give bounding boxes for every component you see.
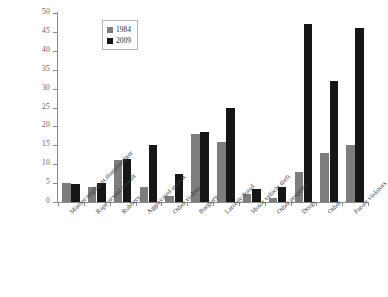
gray-square-icon <box>107 27 113 33</box>
y-axis-tick-label: 15 <box>42 139 50 148</box>
x-axis-tick-mark <box>58 202 59 206</box>
bar-2009 <box>226 108 235 203</box>
y-axis-tick-label: 25 <box>42 102 50 111</box>
y-axis-tick-mark <box>53 202 57 203</box>
y-axis-tick-label: 5 <box>46 177 50 186</box>
y-axis-tick-label: 40 <box>42 45 50 54</box>
y-axis-tick-mark <box>53 126 57 127</box>
y-axis-tick-label: 0 <box>46 196 50 205</box>
y-axis-tick-mark <box>53 145 57 146</box>
bar-2009 <box>304 24 313 202</box>
y-axis-tick-label: 45 <box>42 26 50 35</box>
y-axis-tick-mark <box>53 164 57 165</box>
y-axis-tick-mark <box>53 108 57 109</box>
legend-label: 1984 <box>116 24 131 35</box>
bar-2009 <box>149 145 158 202</box>
y-axis-tick-label: 10 <box>42 158 50 167</box>
legend-item: 2009 <box>107 35 131 46</box>
legend-item: 1984 <box>107 24 131 35</box>
y-axis-tick-mark <box>53 183 57 184</box>
y-axis-tick-label: 35 <box>42 64 50 73</box>
legend-label: 2009 <box>116 35 131 46</box>
bar-2009 <box>330 81 339 202</box>
chart-legend: 1984 2009 <box>102 20 138 50</box>
y-axis-tick-mark <box>53 51 57 52</box>
y-axis-tick-label: 50 <box>42 7 50 16</box>
y-axis-tick-mark <box>53 89 57 90</box>
bar-1984 <box>217 142 226 202</box>
y-axis-tick-label: 30 <box>42 83 50 92</box>
y-axis-tick-label: 20 <box>42 120 50 129</box>
bar-1984 <box>346 145 355 202</box>
y-axis-tick-mark <box>53 32 57 33</box>
bar-2009 <box>355 28 364 202</box>
y-axis-tick-mark <box>53 13 57 14</box>
bar-1984 <box>320 153 329 202</box>
black-square-icon <box>107 38 113 44</box>
bar-2009 <box>200 132 209 202</box>
y-axis-tick-mark <box>53 70 57 71</box>
x-axis-tick-mark <box>342 202 343 206</box>
bar-1984 <box>140 187 149 202</box>
bar-1984 <box>62 183 71 202</box>
